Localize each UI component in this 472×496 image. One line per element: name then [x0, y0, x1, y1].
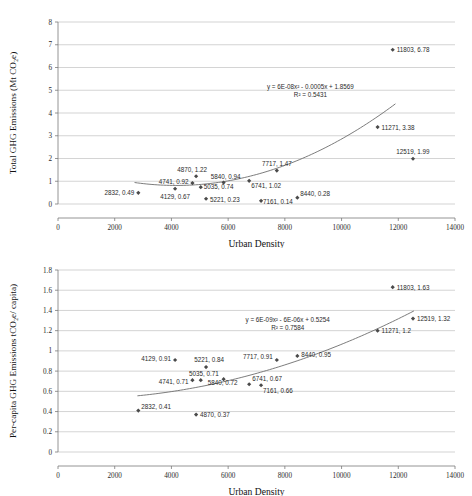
chart-per-capita-ghg-emissions: 00.20.40.60.811.21.41.61.802000400060008… [0, 248, 472, 496]
x-tick-label: 0 [56, 472, 60, 480]
x-axis-title: Urban Density [228, 238, 284, 248]
data-point-label: 5035, 0.74 [204, 183, 234, 190]
trendline [135, 104, 396, 186]
y-tick-label: 7 [48, 41, 52, 49]
trendline-equation: y = 6E-08x² - 0.0005x + 1.8569 [267, 83, 354, 91]
data-point-label: 7161, 0.14 [263, 198, 293, 205]
data-point-label: 12519, 1.99 [396, 148, 430, 155]
y-tick-label: 0.8 [43, 368, 52, 376]
data-point-marker [247, 382, 251, 386]
chart-1-canvas: 0123456780200040006000800010000120001400… [0, 0, 472, 248]
data-point-label: 4741, 0.71 [159, 378, 189, 385]
data-point-label: 8440, 0.95 [301, 351, 331, 358]
data-point-marker [173, 358, 177, 362]
data-point-marker [411, 316, 415, 320]
data-point-label: 4129, 0.67 [160, 193, 190, 200]
data-point-label: 5840, 0.94 [211, 173, 241, 180]
data-point-marker [194, 412, 198, 416]
x-tick-label: 12000 [389, 224, 407, 232]
trendline-r-squared: R² = 0.7584 [271, 324, 305, 331]
y-tick-label: 0 [48, 449, 52, 457]
data-point-label: 11271, 3.38 [382, 124, 415, 131]
data-point-marker [136, 408, 140, 412]
y-tick-label: 1.8 [43, 267, 52, 275]
x-tick-label: 6000 [221, 472, 236, 480]
data-point-label: 5840, 0.72 [208, 379, 238, 386]
data-point-label: 12519, 1.32 [417, 315, 451, 322]
data-point-marker [204, 365, 208, 369]
data-point-label: 4129, 0.91 [141, 355, 171, 362]
data-point-marker [204, 197, 208, 201]
data-point-label: 7717, 0.91 [243, 353, 273, 360]
trendline-equation: y = 6E-09x² - 6E-06x + 0.5254 [246, 316, 331, 324]
x-tick-label: 6000 [221, 224, 236, 232]
x-tick-label: 10000 [333, 472, 351, 480]
y-tick-label: 5 [48, 87, 52, 95]
data-point-marker [295, 196, 299, 200]
y-tick-label: 1 [48, 347, 52, 355]
data-point-label: 11803, 6.78 [397, 46, 430, 53]
chart-2-canvas: 00.20.40.60.811.21.41.61.802000400060008… [0, 248, 472, 496]
data-point-label: 5035, 0.71 [189, 370, 219, 377]
data-point-marker [275, 358, 279, 362]
y-tick-label: 1.2 [43, 327, 52, 335]
data-point-label: 5221, 0.84 [194, 356, 224, 363]
x-axis-title: Urban Density [228, 486, 284, 496]
data-point-label: 5221, 0.23 [210, 196, 240, 203]
data-point-label: 7717, 1.47 [262, 160, 292, 167]
x-tick-label: 2000 [108, 224, 123, 232]
data-point-label: 4870, 0.37 [200, 411, 230, 418]
data-point-label: 4741, 0.92 [159, 178, 189, 185]
x-tick-label: 14000 [446, 224, 464, 232]
x-tick-label: 2000 [108, 472, 123, 480]
y-axis-title: Total GHG Emissions (Mt CO₂e) [8, 52, 18, 175]
y-tick-label: 0.2 [43, 428, 52, 436]
y-tick-label: 0 [48, 201, 52, 209]
data-point-marker [173, 187, 177, 191]
data-point-marker [199, 378, 203, 382]
y-axis-title: Per-capita GHG Emissions tCO₂e/ capita) [8, 284, 18, 438]
y-tick-label: 8 [48, 19, 52, 27]
data-point-marker [194, 174, 198, 178]
data-point-label: 4870, 1.22 [177, 166, 207, 173]
data-point-label: 11803, 1.63 [397, 284, 430, 291]
data-point-marker [199, 185, 203, 189]
data-point-marker [391, 285, 395, 289]
x-tick-label: 0 [56, 224, 60, 232]
data-point-marker [295, 354, 299, 358]
x-tick-label: 4000 [164, 224, 179, 232]
data-point-label: 2832, 0.41 [141, 403, 171, 410]
x-tick-label: 10000 [333, 224, 351, 232]
data-point-marker [190, 378, 194, 382]
y-tick-label: 1 [48, 178, 52, 186]
trendline-r-squared: R² = 0.5431 [294, 91, 328, 98]
y-tick-label: 2 [48, 155, 52, 163]
x-tick-label: 12000 [389, 472, 407, 480]
data-point-label: 2832, 0.49 [105, 189, 135, 196]
data-point-marker [376, 125, 380, 129]
data-point-marker [136, 191, 140, 195]
y-tick-label: 0.6 [43, 388, 52, 396]
y-tick-label: 1.4 [43, 307, 52, 315]
x-tick-label: 8000 [278, 472, 293, 480]
data-point-label: 6741, 1.02 [251, 182, 281, 189]
y-tick-label: 1.6 [43, 287, 52, 295]
y-tick-label: 6 [48, 64, 52, 72]
x-tick-label: 14000 [446, 472, 464, 480]
data-point-marker [391, 48, 395, 52]
data-point-label: 11271, 1.2 [382, 327, 412, 334]
data-point-label: 6741, 0.67 [252, 375, 282, 382]
x-tick-label: 8000 [278, 224, 293, 232]
data-point-label: 8440, 0.28 [300, 190, 330, 197]
chart-total-ghg-emissions: 0123456780200040006000800010000120001400… [0, 0, 472, 248]
data-point-marker [411, 157, 415, 161]
data-point-label: 7161, 0.66 [263, 387, 293, 394]
y-tick-label: 0.4 [43, 408, 52, 416]
y-tick-label: 4 [48, 110, 52, 118]
x-tick-label: 4000 [164, 472, 179, 480]
y-tick-label: 3 [48, 132, 52, 140]
